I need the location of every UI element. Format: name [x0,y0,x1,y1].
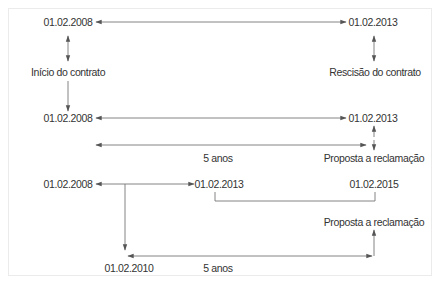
scenario3-mid-date: 01.02.2013 [194,178,243,190]
scenario1-start-label: Início do contrato [31,66,105,78]
scenario1-start-date: 01.02.2008 [43,16,92,28]
timeline-diagram [0,0,442,285]
scenario1-end-date: 01.02.2013 [348,16,397,28]
scenario3-duration-label: 5 anos [203,262,232,274]
scenario2-duration-label: 5 anos [203,152,232,164]
scenario2-end-date: 01.02.2013 [348,112,397,124]
scenario2-start-date: 01.02.2008 [43,112,92,124]
scenario2-claim-label: Proposta a reclamação [324,152,425,164]
scenario3-extended-date: 01.02.2015 [349,178,398,190]
scenario3-claim-label: Proposta a reclamação [324,216,425,228]
row4-bracket [215,192,375,201]
scenario3-start-date: 01.02.2008 [43,178,92,190]
scenario1-end-label: Rescisão do contrato [329,66,421,78]
scenario3-lower-date: 01.02.2010 [104,262,153,274]
